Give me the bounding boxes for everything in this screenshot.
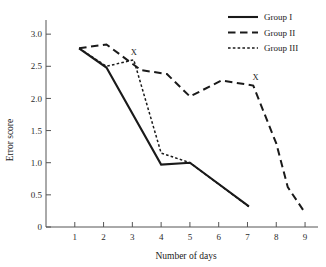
- y-tick-label: 2.0: [31, 94, 43, 104]
- y-axis-ticks: 00.51.01.52.02.53.0: [31, 29, 51, 232]
- x-axis-ticks: 123456789: [73, 222, 308, 242]
- annotations-group: XX: [131, 47, 259, 83]
- legend-label-group-i: Group I: [264, 12, 292, 22]
- series-line-group-i: [79, 48, 249, 206]
- y-tick-label: 1.0: [31, 158, 43, 168]
- x-tick-label: 6: [216, 232, 221, 242]
- line-chart: 00.51.01.52.02.53.0 123456789 XX Error s…: [0, 0, 326, 267]
- x-axis-title: Number of days: [155, 251, 217, 261]
- chart-legend: Group IGroup IIGroup III: [228, 12, 298, 53]
- y-tick-label: 2.5: [31, 61, 43, 71]
- y-tick-label: 0.5: [31, 190, 43, 200]
- x-tick-label: 2: [101, 232, 106, 242]
- series-line-group-ii: [79, 44, 305, 212]
- y-tick-label: 0: [38, 222, 43, 232]
- series-line-group-iii: [79, 48, 250, 207]
- x-tick-label: 3: [130, 232, 135, 242]
- x-tick-label: 4: [159, 232, 164, 242]
- y-tick-label: 3.0: [31, 29, 43, 39]
- legend-label-group-ii: Group II: [264, 28, 295, 38]
- data-series-group: [79, 44, 305, 212]
- y-axis-title: Error score: [5, 119, 15, 161]
- legend-label-group-iii: Group III: [264, 43, 298, 53]
- x-tick-label: 1: [73, 232, 78, 242]
- annotation-marker: X: [252, 72, 258, 82]
- y-tick-label: 1.5: [31, 126, 43, 136]
- x-tick-label: 7: [245, 232, 250, 242]
- annotation-marker: X: [131, 47, 137, 57]
- x-tick-label: 5: [188, 232, 193, 242]
- chart-container: 00.51.01.52.02.53.0 123456789 XX Error s…: [0, 0, 326, 267]
- x-tick-label: 9: [303, 232, 308, 242]
- x-tick-label: 8: [274, 232, 279, 242]
